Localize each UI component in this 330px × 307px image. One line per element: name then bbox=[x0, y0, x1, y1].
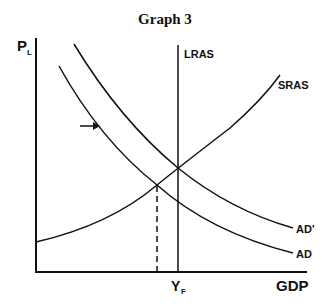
sras-label: SRAS bbox=[278, 79, 309, 91]
graph-title: Graph 3 bbox=[138, 11, 192, 27]
y-axis-sub: L bbox=[27, 48, 32, 57]
yf-sub: F bbox=[181, 287, 186, 296]
ad-prime-label: AD' bbox=[296, 223, 315, 235]
x-axis-label: GDP bbox=[276, 277, 309, 294]
yf-label: Y bbox=[171, 278, 181, 294]
ad-label: AD bbox=[296, 248, 312, 260]
graph: Graph 3 P L GDP Y F LRAS SRAS AD' AD bbox=[0, 0, 330, 307]
ad-curve bbox=[59, 66, 293, 253]
sras-curve bbox=[36, 75, 280, 242]
y-axis-label: P bbox=[17, 37, 27, 54]
lras-label: LRAS bbox=[184, 48, 214, 60]
